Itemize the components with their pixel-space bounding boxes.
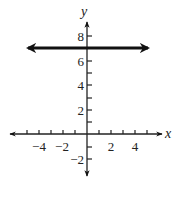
- x-tick-label: 2: [108, 139, 115, 154]
- x-tick-label: −2: [55, 139, 69, 154]
- y-tick-label: 8: [78, 29, 85, 44]
- coordinate-plane: −4 −2 2 4 8 6 4 2 −2 x y: [0, 0, 178, 201]
- x-tick-label: 4: [132, 139, 139, 154]
- y-tick-label: −2: [70, 152, 84, 167]
- y-tick-label: 4: [78, 78, 85, 93]
- y-axis-ticks: [87, 36, 92, 159]
- x-axis-label: x: [164, 126, 172, 141]
- y-tick-label: 6: [78, 54, 85, 69]
- y-tick-label: 2: [78, 103, 85, 118]
- y-axis-label: y: [79, 4, 88, 19]
- x-tick-label: −4: [32, 139, 46, 154]
